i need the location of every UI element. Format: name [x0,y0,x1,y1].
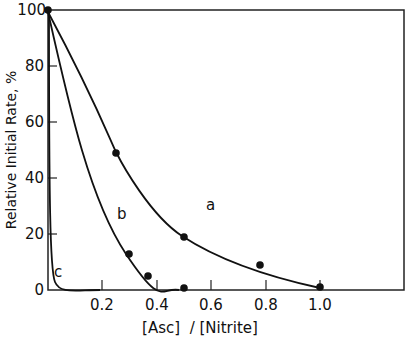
chart: 0 20 40 60 80 100 Relative Initial Rate,… [0,0,408,340]
plot-frame [48,10,404,290]
svg-text:c: c [54,263,62,281]
svg-text:b: b [117,205,127,223]
x-axis [102,280,320,290]
svg-text:40: 40 [25,169,44,187]
y-axis-label: Relative Initial Rate, % [3,71,19,229]
curve-a [48,12,320,288]
svg-text:0.2: 0.2 [90,296,114,314]
x-axis-label: [Asc] / [Nitrite] [142,319,258,337]
svg-text:1.0: 1.0 [308,296,332,314]
svg-text:20: 20 [25,225,44,243]
y-tick-labels: 0 20 40 60 80 100 [17,1,46,299]
svg-text:100: 100 [17,1,46,19]
svg-text:80: 80 [25,57,44,75]
svg-text:0.4: 0.4 [145,296,169,314]
svg-text:60: 60 [25,113,44,131]
svg-text:0.8: 0.8 [254,296,278,314]
svg-text:a: a [206,196,215,214]
x-tick-labels: 0.2 0.4 0.6 0.8 1.0 [90,296,332,314]
curve-labels: a b c [54,196,215,281]
svg-text:0: 0 [34,281,44,299]
svg-text:0.6: 0.6 [199,296,223,314]
data-points [44,6,324,292]
